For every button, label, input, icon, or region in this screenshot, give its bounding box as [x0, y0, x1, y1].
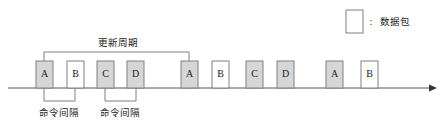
packet-label: D	[132, 68, 139, 79]
command-interval-label: 命令间隔	[39, 107, 79, 118]
packet-label: C	[251, 68, 258, 79]
update-cycle-label: 更新周期	[98, 37, 138, 48]
packet-boxes: ABCDABCDAB	[36, 61, 378, 88]
packet-label: B	[366, 68, 373, 79]
arrow-right-icon	[429, 85, 437, 92]
packet-label: C	[102, 68, 109, 79]
packet-label: D	[282, 68, 289, 79]
packet-label: A	[331, 68, 339, 79]
packet-swatch-icon	[346, 10, 363, 33]
legend-colon: :	[369, 17, 372, 27]
timing-diagram-canvas: 更新周期 命令间隔命令间隔 ABCDABCDAB : 数据包	[0, 0, 443, 128]
legend-label: 数据包	[380, 16, 410, 27]
packet-label: A	[41, 68, 49, 79]
packet-label: A	[186, 68, 194, 79]
command-interval-brackets: 命令间隔命令间隔	[39, 88, 140, 118]
legend: : 数据包	[346, 10, 410, 33]
packet-label: B	[217, 68, 224, 79]
command-interval-bracket-1	[105, 88, 136, 101]
packet-label: B	[72, 68, 79, 79]
command-interval-bracket-0	[44, 88, 75, 101]
command-interval-label: 命令间隔	[100, 107, 140, 118]
timing-diagram-root: 更新周期 命令间隔命令间隔 ABCDABCDAB : 数据包	[0, 0, 443, 128]
update-cycle-bracket: 更新周期	[44, 37, 189, 62]
